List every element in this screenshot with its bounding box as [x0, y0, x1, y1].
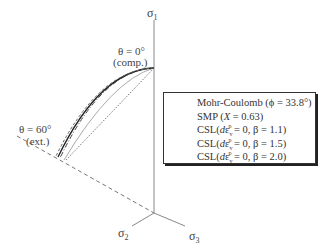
theta0-note: (comp.): [113, 57, 148, 68]
legend: Mohr-Coulomb (ϕ = 33.8°) SMP (X = 0.63) …: [163, 92, 316, 164]
legend-text: CSL(dεvp = 0, β = 2.0): [197, 150, 286, 164]
theta60-label: θ = 60°: [19, 124, 51, 135]
legend-text: CSL(dεvp = 0, β = 1.1): [197, 123, 286, 137]
legend-item-csl-beta-1.1: CSL(dεvp = 0, β = 1.1): [168, 123, 286, 137]
theta60-reference-line: [17, 136, 154, 213]
legend-item-csl-beta-1.5: CSL(dεvp = 0, β = 1.5): [168, 137, 286, 151]
sigma2-axis: [132, 213, 154, 226]
sigma1-label: σ1: [147, 8, 157, 23]
csl-beta-2.0-curve: [56, 68, 154, 156]
legend-text: CSL(dεvp = 0, β = 1.5): [197, 137, 286, 151]
legend-text: SMP (X = 0.63): [197, 111, 263, 122]
sigma3-label: σ3: [189, 231, 199, 246]
legend-item-smp: SMP (X = 0.63): [168, 109, 263, 123]
sigma2-label: σ2: [118, 228, 128, 243]
legend-item-csl-beta-2.0: CSL(dεvp = 0, β = 2.0): [168, 150, 286, 164]
mohr-coulomb-curve: [66, 68, 154, 160]
sigma3-axis: [154, 213, 185, 226]
csl-beta-1.5-curve: [58, 68, 154, 157]
theta60-note: (ext.): [26, 136, 50, 147]
legend-text: Mohr-Coulomb (ϕ = 33.8°): [197, 97, 312, 108]
legend-item-mohr-coulomb: Mohr-Coulomb (ϕ = 33.8°): [168, 95, 312, 109]
